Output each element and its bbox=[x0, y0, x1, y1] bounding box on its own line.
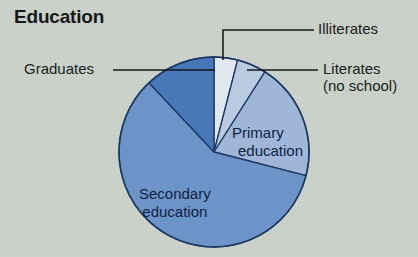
slice-label-primary-line1: Primary bbox=[232, 124, 284, 141]
slice-label-graduates: Graduates bbox=[24, 60, 94, 77]
leader-line-illiterates bbox=[223, 30, 314, 60]
slice-label-secondary-line2: education bbox=[139, 203, 211, 221]
education-pie-figure: Education Graduates Illiterates Literate… bbox=[0, 0, 418, 257]
slice-label-illiterates: Illiterates bbox=[318, 20, 378, 37]
slice-label-secondary-line1: Secondary bbox=[139, 185, 211, 202]
slice-label-literates-line1: Literates bbox=[323, 60, 381, 77]
slice-label-literates: Literates (no school) bbox=[323, 60, 397, 94]
slice-label-primary-education: Primary education bbox=[232, 124, 303, 160]
slice-label-secondary-education: Secondary education bbox=[139, 185, 211, 221]
slice-label-primary-line2: education bbox=[238, 142, 303, 160]
slice-label-literates-line2: (no school) bbox=[323, 77, 397, 94]
